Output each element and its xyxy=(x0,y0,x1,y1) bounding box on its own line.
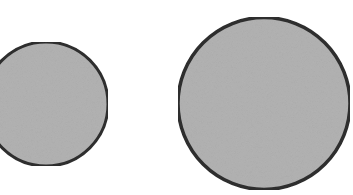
large-circle xyxy=(178,18,350,190)
diagram-canvas xyxy=(0,0,353,195)
small-circle xyxy=(0,42,108,166)
